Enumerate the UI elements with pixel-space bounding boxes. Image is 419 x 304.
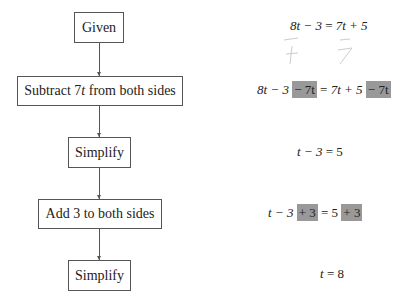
highlight: + 3 [341, 204, 362, 221]
equation-simplify-1: t − 3 = 5 [297, 144, 343, 160]
step-box-simplify-2: Simplify [68, 260, 131, 291]
step-label: Subtract 7t from both sides [24, 83, 176, 99]
equation-subtract: 8t − 3 − 7t = 7t + 5 − 7t [257, 82, 391, 98]
step-label: Add 3 to both sides [46, 206, 155, 222]
step-box-simplify-1: Simplify [68, 137, 131, 168]
step-label: Simplify [75, 268, 124, 284]
step-label: Simplify [75, 145, 124, 161]
handwritten-scribble-icon [278, 34, 358, 68]
equation-given: 8t − 3 = 7t + 5 [290, 18, 368, 34]
equation-add: t − 3 + 3 = 5 + 3 [268, 205, 362, 221]
step-box-subtract: Subtract 7t from both sides [17, 76, 183, 106]
step-box-given: Given [74, 12, 124, 43]
step-box-add: Add 3 to both sides [38, 199, 162, 229]
step-label: Given [82, 20, 116, 36]
highlight: − 7t [292, 81, 317, 98]
highlight: + 3 [297, 204, 318, 221]
equation-final: t = 8 [320, 266, 344, 282]
highlight: − 7t [366, 81, 391, 98]
